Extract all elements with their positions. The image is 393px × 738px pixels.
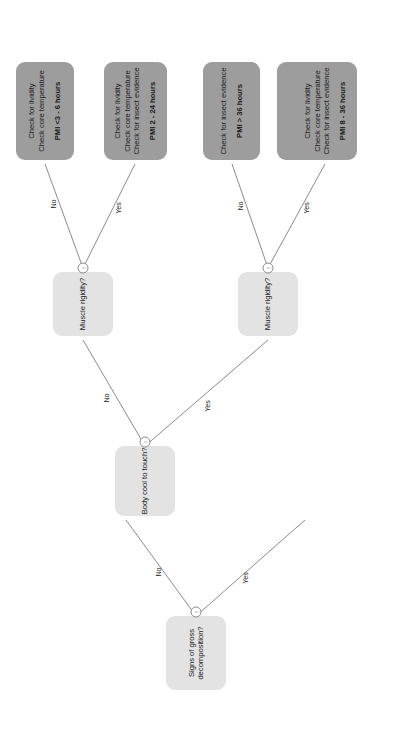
decision-marker-rigidity-upper: ! [78,263,89,274]
node-terminal-insect-evidence[interactable]: Check for insect evidence PMI > 36 hours [203,62,260,160]
node-line: Check core temperature [37,70,46,151]
node-muscle-rigidity-lower[interactable]: Muscle rigidity? [238,272,298,336]
decision-marker-rigidity-lower: ! [263,263,274,274]
edge-bodycool-yes [145,340,268,446]
node-pmi: PMI <3 - 6 hours [53,82,62,140]
decision-marker-body-cool: ! [140,437,151,448]
edge-rigidity-lower-no [232,164,268,268]
node-body-cool-to-touch[interactable]: Body cool to touch? [115,446,175,516]
node-line: Check core temperature [313,70,322,151]
edge-rigidity-upper-no [45,164,83,268]
node-line: Check for insect evidence [132,68,141,155]
node-signs-of-gross-decomposition[interactable]: Signs of gross decomposition? [166,616,226,690]
node-line: Check core temperature [123,70,132,151]
edge-root-yes [196,520,305,616]
edge-label-bodycool-no: No [102,393,111,402]
node-line: Check for insect evidence [322,68,331,155]
node-line: Check for lividity [303,83,312,138]
edge-rigidity-upper-yes [83,164,135,268]
edge-label-rigidity-upper-yes: Yes [114,202,123,214]
node-pmi: PMI 2 - 24 hours [148,82,157,140]
edge-label-rigidity-upper-no: No [49,199,58,208]
node-line: Signs of gross [187,629,196,677]
edge-label-root-no: No [154,567,163,576]
edge-bodycool-no [83,340,145,446]
node-line: decomposition? [196,626,205,679]
edge-label-root-yes: Yes [241,572,250,584]
decision-marker-root: ! [191,607,202,618]
node-pmi: PMI > 36 hours [235,84,244,138]
node-line: Check for lividity [27,83,36,138]
edge-label-rigidity-lower-yes: Yes [302,202,311,214]
node-pmi: PMI 8 - 36 hours [338,82,347,140]
node-line: Check for lividity [113,83,122,138]
node-terminal-pmi-8-36[interactable]: Check for lividity Check core temperatur… [294,62,357,160]
edge-rigidity-lower-yes [268,164,325,268]
edge-label-bodycool-yes: Yes [203,400,212,412]
node-line: Muscle rigidity? [263,278,272,330]
node-terminal-lividity-core-temp[interactable]: Check for lividity Check core temperatur… [16,62,74,160]
node-terminal-pmi-2-24[interactable]: Check for lividity Check core temperatur… [104,62,167,160]
node-line: Check for insect evidence [219,68,228,155]
node-line: Muscle rigidity? [78,278,87,330]
node-muscle-rigidity-upper[interactable]: Muscle rigidity? [53,272,113,336]
node-line: Body cool to touch? [140,448,149,515]
edge-label-rigidity-lower-no: No [236,201,245,210]
decision-tree-diagram: Signs of gross decomposition? ! Body coo… [0,0,393,738]
